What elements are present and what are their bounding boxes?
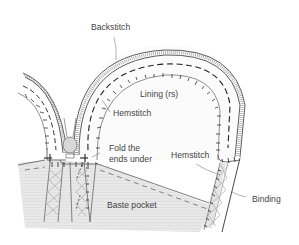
button-shape: [63, 137, 77, 153]
label-fold-line1: Fold the: [109, 143, 140, 153]
sewing-diagram: Backstitch Lining (rs) Hemstitch Fold th…: [0, 0, 299, 245]
label-binding: Binding: [252, 194, 281, 204]
left-flap-backstitch: [23, 86, 56, 150]
label-baste-pocket: Baste pocket: [107, 200, 157, 210]
leader-hemstitch-right: [196, 164, 220, 175]
label-hemstitch-right: Hemstitch: [171, 150, 209, 160]
left-flap-binding-outer: [23, 73, 67, 153]
label-fold-line2: ends under: [109, 154, 152, 164]
left-flap-hemstitch: [18, 93, 47, 150]
leader-binding: [232, 192, 246, 197]
label-backstitch: Backstitch: [91, 22, 130, 32]
label-lining: Lining (rs): [140, 89, 178, 99]
label-hemstitch-top: Hemstitch: [113, 108, 151, 118]
